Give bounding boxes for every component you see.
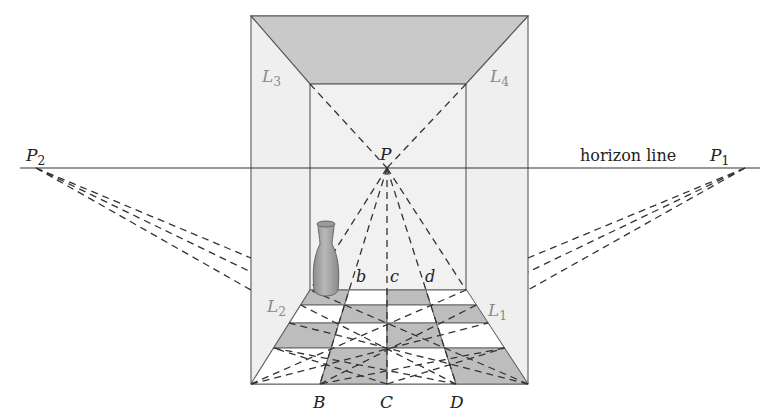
vanishing-point-p-label: P (379, 144, 392, 164)
floor-tile (345, 290, 387, 305)
back-point-d: d (425, 267, 435, 286)
front-point-B: B (312, 392, 326, 412)
back-point-c: c (390, 267, 399, 286)
floor-tile (387, 305, 437, 323)
vanishing-point-p1-label: P1 (709, 145, 729, 168)
back-point-b: b (356, 267, 366, 286)
perspective-diagram: PP1P2horizon lineL3L4L2L1bcdBCD (0, 0, 770, 418)
horizon-line-label: horizon line (580, 146, 676, 165)
front-point-D: D (449, 392, 464, 412)
floor-tile (387, 290, 431, 305)
front-point-C: C (380, 392, 393, 412)
vanishing-point-p2-label: P2 (25, 145, 45, 168)
